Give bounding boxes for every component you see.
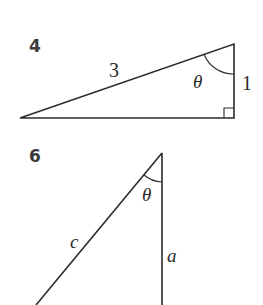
- hypotenuse-label-c: c: [70, 231, 79, 252]
- figure-number-4: 4: [29, 36, 41, 56]
- figure-6: 6 θ c a: [29, 146, 177, 305]
- side-label-1: 1: [242, 72, 252, 94]
- hypotenuse-c-line: [36, 153, 162, 305]
- figure-4: 4 3 θ 1: [20, 36, 252, 118]
- hypotenuse-label-3: 3: [109, 59, 119, 81]
- angle-arc-theta-4: [204, 54, 234, 74]
- figure-number-6: 6: [29, 146, 41, 166]
- angle-arc-theta-6: [144, 175, 162, 182]
- angle-label-theta-4: θ: [193, 71, 202, 92]
- angle-label-theta-6: θ: [142, 184, 151, 205]
- right-angle-marker: [224, 108, 234, 118]
- diagram-canvas: 4 3 θ 1 6 θ c a: [0, 0, 263, 305]
- side-label-a: a: [167, 245, 177, 266]
